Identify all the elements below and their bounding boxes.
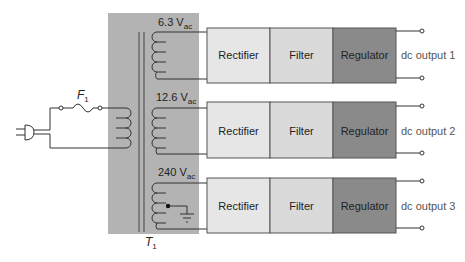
regulator-label: Regulator: [341, 125, 389, 137]
output-terminal: [420, 179, 424, 183]
output-terminal: [420, 226, 424, 230]
dc-output-1-label: dc output 1: [401, 49, 455, 61]
fuse-icon: [50, 104, 102, 148]
dc-output-2-label: dc output 2: [401, 125, 455, 137]
row-2: Rectifier Filter Regulator dc output 2: [207, 102, 455, 158]
filter-label: Filter: [289, 200, 314, 212]
regulator-label: Regulator: [341, 49, 389, 61]
output-terminal: [420, 104, 424, 108]
power-supply-diagram: F1 T1 6.3 Vac 12.6 Vac 240 Vac Rectifier…: [0, 0, 465, 262]
fuse-label: F1: [77, 88, 89, 104]
output-terminal: [420, 29, 424, 33]
filter-label: Filter: [289, 49, 314, 61]
rectifier-label: Rectifier: [218, 125, 259, 137]
output-terminal: [420, 151, 424, 155]
filter-label: Filter: [289, 125, 314, 137]
transformer-label: T1: [145, 235, 157, 251]
row-1: Rectifier Filter Regulator dc output 1: [207, 28, 455, 83]
ac-plug-icon: [16, 125, 50, 140]
dc-output-3-label: dc output 3: [401, 200, 455, 212]
center-tap-dot: [166, 204, 170, 208]
rectifier-label: Rectifier: [218, 49, 259, 61]
rectifier-label: Rectifier: [218, 200, 259, 212]
row-3: Rectifier Filter Regulator dc output 3: [207, 178, 455, 233]
output-terminal: [420, 76, 424, 80]
regulator-label: Regulator: [341, 200, 389, 212]
